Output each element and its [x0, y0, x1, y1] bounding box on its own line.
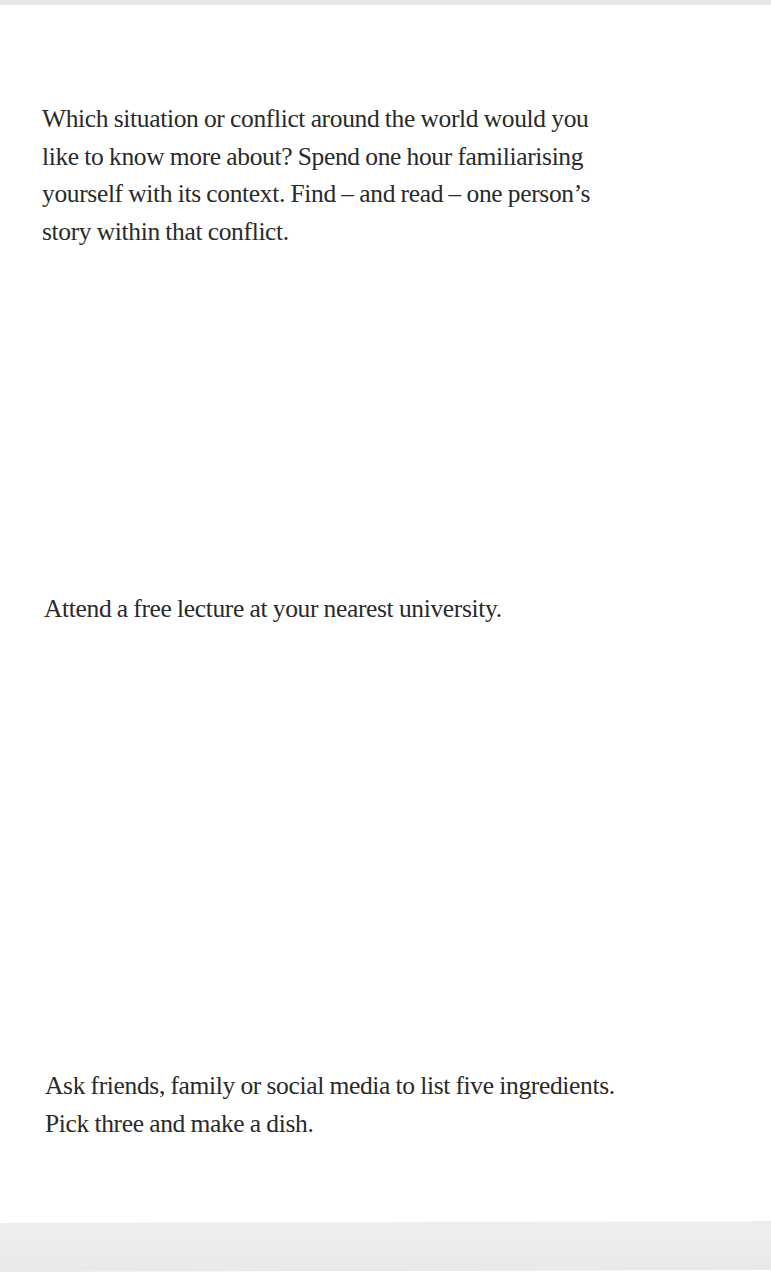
prompt-line: story within that conflict. — [42, 213, 702, 251]
prompt-line: yourself with its context. Find – and re… — [42, 175, 702, 213]
prompt-line: Which situation or conflict around the w… — [42, 100, 702, 138]
scan-bottom-edge — [0, 1221, 771, 1272]
book-page: Which situation or conflict around the w… — [0, 5, 771, 1223]
prompt-line: Attend a free lecture at your nearest un… — [44, 590, 704, 628]
prompt-free-lecture: Attend a free lecture at your nearest un… — [44, 590, 704, 628]
prompt-conflict-story: Which situation or conflict around the w… — [42, 100, 702, 250]
prompt-line: like to know more about? Spend one hour … — [42, 138, 702, 176]
prompt-line: Ask friends, family or social media to l… — [45, 1067, 745, 1105]
prompt-five-ingredients: Ask friends, family or social media to l… — [45, 1067, 745, 1142]
prompt-line: Pick three and make a dish. — [45, 1105, 745, 1143]
